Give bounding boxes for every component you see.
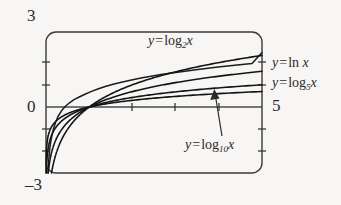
plot-canvas (0, 0, 341, 205)
label-log2-eq: = (154, 33, 164, 48)
curve-label-log2: y=log2x (148, 34, 193, 50)
y-axis-min-label: –3 (25, 176, 42, 193)
label-log5-arg: x (311, 75, 317, 90)
label-log2-arg: x (187, 33, 193, 48)
log10-annotation-arrow (211, 91, 222, 137)
label-ln-fn: ln (288, 55, 299, 70)
label-log10-arg: x (228, 137, 234, 152)
label-log5-eq: = (278, 75, 288, 90)
logarithm-graph-figure: 3 –3 0 5 y=log2x y=ln x y=log5x y=log10x (0, 0, 341, 205)
y-axis-max-label: 3 (27, 7, 36, 24)
label-log10-eq: = (191, 137, 201, 152)
label-log10-fn: log (201, 137, 219, 152)
x-axis-max-label: 5 (272, 97, 281, 114)
curve-y-log2-x (52, 55, 263, 173)
logarithm-curve-group (46, 55, 262, 173)
label-log2-fn: log (164, 33, 182, 48)
label-log10-base: 10 (219, 144, 228, 154)
label-ln-eq: = (278, 55, 288, 70)
label-ln-arg: x (303, 55, 309, 70)
label-log5-fn: log (288, 75, 306, 90)
curve-label-log10: y=log10x (185, 138, 234, 154)
curve-label-log5: y=log5x (272, 76, 317, 92)
curve-label-ln: y=ln x (272, 56, 309, 70)
origin-label: 0 (27, 98, 36, 115)
curve-y-log10-x (46, 91, 262, 173)
